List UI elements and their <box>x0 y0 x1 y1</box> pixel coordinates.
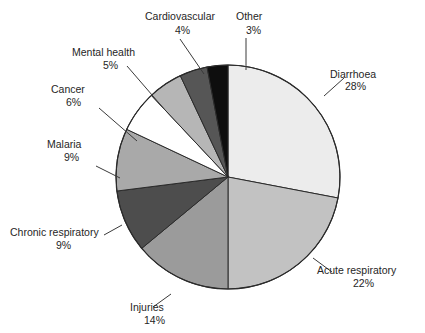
pie-chart-figure: Diarrhoea28%Acute respiratory22%Injuries… <box>0 0 425 333</box>
pie-slice-diarrhoea[interactable] <box>228 65 340 198</box>
slice-label-acute-respiratory: Acute respiratory <box>317 264 397 276</box>
slice-value-diarrhoea: 28% <box>345 80 366 92</box>
leader-line-diarrhoea <box>324 78 344 96</box>
slice-label-injuries: Injuries <box>130 301 164 313</box>
slice-value-cardiovascular: 4% <box>175 24 190 36</box>
slice-label-cancer: Cancer <box>51 83 85 95</box>
pie-slices-group <box>116 65 340 289</box>
slice-value-injuries: 14% <box>144 314 165 326</box>
pie-chart-svg: Diarrhoea28%Acute respiratory22%Injuries… <box>0 0 425 333</box>
slice-label-chronic-respiratory: Chronic respiratory <box>10 226 99 238</box>
slice-value-cancer: 6% <box>66 96 81 108</box>
slice-value-malaria: 9% <box>64 151 79 163</box>
slice-value-mental-health: 5% <box>103 59 118 71</box>
leader-line-cardiovascular <box>180 39 204 74</box>
leader-line-chronic-respiratory <box>104 225 122 235</box>
slice-value-acute-respiratory: 22% <box>353 277 374 289</box>
slice-label-cardiovascular: Cardiovascular <box>145 10 216 22</box>
slice-value-chronic-respiratory: 9% <box>56 239 71 251</box>
slice-label-other: Other <box>236 10 263 22</box>
slice-label-mental-health: Mental health <box>72 46 135 58</box>
slice-label-malaria: Malaria <box>47 138 82 150</box>
slice-label-diarrhoea: Diarrhoea <box>330 68 376 80</box>
slice-value-other: 3% <box>246 24 261 36</box>
